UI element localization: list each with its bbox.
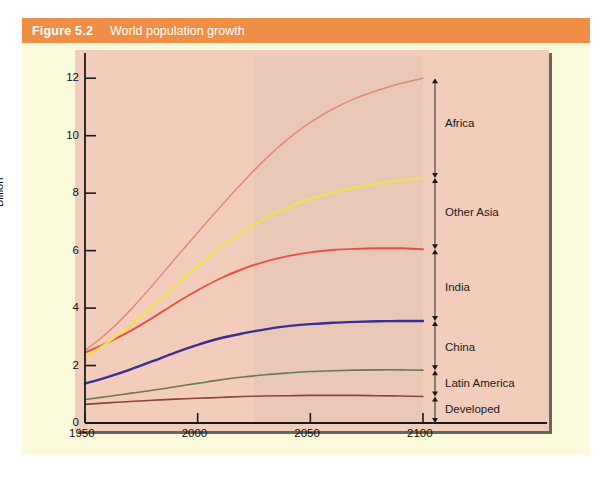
y-tick-label: 8 (53, 186, 79, 198)
series-label-china: China (445, 341, 475, 353)
x-tick-label: 2050 (294, 427, 320, 439)
plot-area (75, 50, 549, 431)
figure-header-bar: Figure 5.2 World population growth (22, 18, 590, 43)
series-label-other-asia: Other Asia (445, 206, 499, 218)
y-tick-label: 10 (53, 129, 79, 141)
series-label-africa: Africa (445, 117, 474, 129)
figure-title: World population growth (110, 24, 245, 38)
bracket-markers (432, 78, 438, 423)
figure-number: Figure 5.2 (32, 24, 93, 38)
series-label-india: India (445, 281, 470, 293)
y-tick-label: 12 (53, 71, 79, 83)
y-axis-title: Billion (0, 178, 5, 207)
line-chart-svg (75, 50, 549, 431)
x-tick-label: 1950 (69, 427, 95, 439)
x-tick-label: 2000 (182, 427, 208, 439)
y-tick-label: 2 (53, 359, 79, 371)
y-tick-label: 6 (53, 244, 79, 256)
y-tick-label: 4 (53, 301, 79, 313)
x-tick-label: 2100 (407, 427, 433, 439)
series-label-latin-america: Latin America (445, 377, 515, 389)
series-label-developed: Developed (445, 403, 500, 415)
shade-band (254, 56, 423, 423)
